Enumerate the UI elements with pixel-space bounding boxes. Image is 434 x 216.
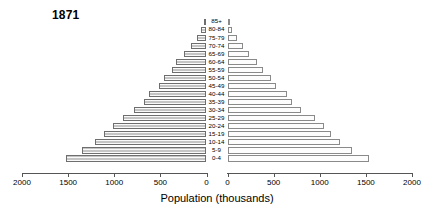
age-group-label: 40-44: [204, 90, 230, 98]
bar-male-45-49: [159, 83, 207, 89]
age-group-label: 5-9: [204, 146, 230, 154]
bar-female-40-44: [228, 91, 287, 97]
age-group-label: 45-49: [204, 82, 230, 90]
bar-female-15-19: [228, 131, 331, 137]
bar-female-20-24: [228, 123, 324, 129]
bar-male-50-54: [164, 75, 206, 81]
axis-tick-label: 1500: [59, 178, 77, 187]
axis-tick: [366, 173, 367, 177]
age-group-label: 65-69: [204, 50, 230, 58]
axis-tick: [160, 173, 161, 177]
axis-tick: [228, 173, 229, 177]
age-group-label: 50-54: [204, 74, 230, 82]
axis-tick: [412, 173, 413, 177]
bar-male-60-64: [176, 59, 206, 65]
axis-tick: [320, 173, 321, 177]
bar-male-40-44: [149, 91, 206, 97]
plot-area: 85+80-8475-7970-7465-6960-6455-5950-5445…: [0, 18, 434, 173]
bar-female-45-49: [228, 83, 277, 89]
axis-tick: [274, 173, 275, 177]
bar-male-15-19: [104, 131, 206, 137]
age-group-label: 85+: [204, 17, 230, 25]
age-group-label: 80-84: [204, 25, 230, 33]
axis-tick-label: 500: [154, 178, 167, 187]
age-group-label: 30-34: [204, 106, 230, 114]
bar-male-35-39: [144, 99, 207, 105]
age-group-label: 75-79: [204, 34, 230, 42]
bar-female-50-54: [228, 75, 271, 81]
age-group-label: 0-4: [204, 154, 230, 162]
bar-female-35-39: [228, 99, 292, 105]
age-group-label: 15-19: [204, 130, 230, 138]
bar-female-30-34: [228, 107, 302, 113]
bar-male-0-4: [66, 155, 206, 161]
bar-female-55-59: [228, 67, 263, 73]
bar-female-25-29: [228, 115, 315, 121]
age-group-label: 25-29: [204, 114, 230, 122]
axis-tick-label: 0: [204, 178, 208, 187]
age-group-label: 20-24: [204, 122, 230, 130]
age-group-label: 35-39: [204, 98, 230, 106]
age-group-label: 60-64: [204, 58, 230, 66]
population-pyramid-chart: 1871 85+80-8475-7970-7465-6960-6455-5950…: [0, 0, 434, 216]
axis-tick-label: 500: [267, 178, 280, 187]
axis-tick: [114, 173, 115, 177]
axis-tick-label: 1500: [357, 178, 375, 187]
bar-male-25-29: [123, 115, 206, 121]
bar-female-10-14: [228, 139, 340, 145]
pyramid-row: 0-4: [0, 155, 434, 163]
bar-male-5-9: [82, 147, 207, 153]
axis-tick-label: 0: [225, 178, 229, 187]
bar-female-0-4: [228, 155, 369, 161]
axis-tick: [22, 173, 23, 177]
axis-tick: [68, 173, 69, 177]
bar-female-60-64: [228, 59, 258, 65]
bar-male-55-59: [172, 67, 206, 73]
bar-male-20-24: [113, 123, 206, 129]
bar-female-5-9: [228, 147, 353, 153]
axis-tick-label: 1000: [105, 178, 123, 187]
age-group-label: 10-14: [204, 138, 230, 146]
bar-female-70-74: [228, 43, 243, 49]
axis-tick: [207, 173, 208, 177]
bar-male-10-14: [95, 139, 207, 145]
bar-male-30-34: [134, 107, 207, 113]
bar-female-65-69: [228, 51, 249, 57]
x-axis-title: Population (thousands): [0, 192, 434, 204]
axis-tick-label: 1000: [311, 178, 329, 187]
axis-tick-label: 2000: [13, 178, 31, 187]
axis-tick-label: 2000: [403, 178, 421, 187]
age-group-label: 70-74: [204, 42, 230, 50]
age-group-label: 55-59: [204, 66, 230, 74]
